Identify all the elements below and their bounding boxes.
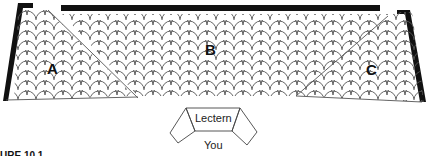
lectern: Lectern You <box>170 108 257 151</box>
lectern-label: Lectern <box>195 112 232 124</box>
section-label-a: A <box>47 60 58 77</box>
lectern-left-wing <box>170 108 195 143</box>
seating-diagram: A B C Lectern You <box>0 0 433 156</box>
section-label-c: C <box>366 61 377 78</box>
lectern-right-wing <box>232 108 257 145</box>
figure-caption: URE 10.1 <box>0 150 43 156</box>
section-label-b: B <box>205 41 216 58</box>
back-wall <box>61 5 380 11</box>
you-label: You <box>204 139 223 151</box>
